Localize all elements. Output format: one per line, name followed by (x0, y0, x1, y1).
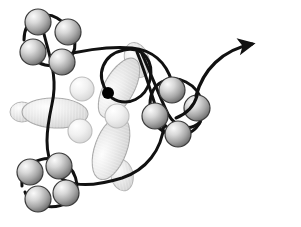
sphere-node (53, 180, 79, 206)
core-sphere-right (105, 104, 129, 128)
sphere-node (25, 9, 51, 35)
figure-root (0, 0, 301, 227)
sphere-node (142, 103, 168, 129)
sphere-node (25, 186, 51, 212)
sphere-node (55, 19, 81, 45)
sphere-node (20, 39, 46, 65)
core-sphere-lower-left (68, 119, 92, 143)
sphere-node (165, 121, 191, 147)
molecular-schematic-canvas (0, 0, 301, 227)
sphere-node (49, 49, 75, 75)
active-site-marker (102, 87, 114, 99)
sphere-node (159, 77, 185, 103)
sphere-node (17, 159, 43, 185)
core-sphere-upper-left (70, 77, 94, 101)
sphere-node (46, 153, 72, 179)
